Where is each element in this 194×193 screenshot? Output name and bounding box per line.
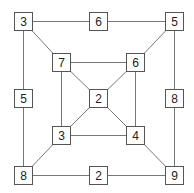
node-outer-top: 6 — [89, 12, 108, 31]
node-outer-right: 8 — [165, 89, 184, 108]
node-inner-bl: 3 — [52, 126, 71, 145]
node-outer-bottom: 2 — [89, 166, 108, 185]
node-center: 2 — [89, 89, 108, 108]
node-outer-bl: 8 — [14, 166, 33, 185]
node-outer-tl: 3 — [14, 12, 33, 31]
node-inner-tl: 7 — [52, 53, 71, 72]
node-inner-br: 4 — [126, 126, 145, 145]
node-outer-tr: 5 — [165, 12, 184, 31]
node-outer-left: 5 — [14, 89, 33, 108]
node-inner-tr: 6 — [126, 53, 145, 72]
node-outer-br: 9 — [165, 166, 184, 185]
graph-diagram: 3 6 5 7 6 5 2 8 3 4 8 2 9 — [0, 0, 194, 193]
